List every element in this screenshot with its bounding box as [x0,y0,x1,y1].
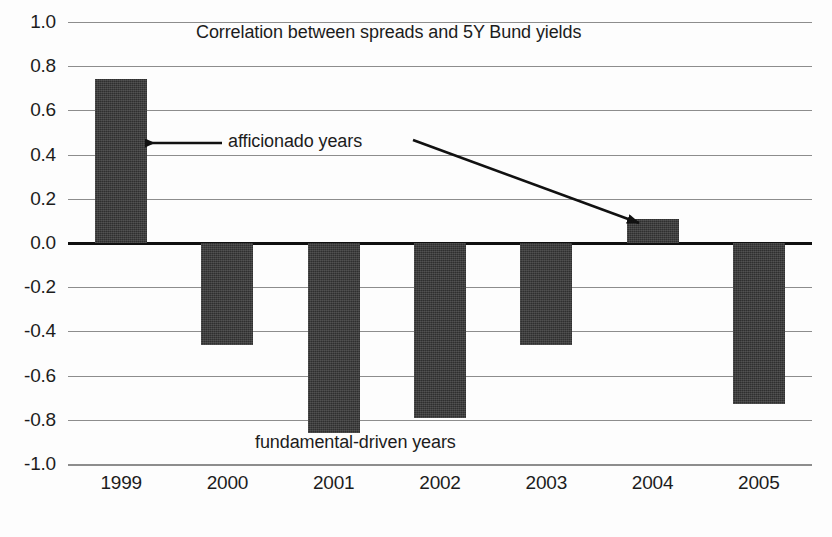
bar-2003 [520,243,572,345]
y-axis-tick-label: 0.4 [30,144,56,166]
chart-title: Correlation between spreads and 5Y Bund … [196,22,581,43]
bottom-caption [52,523,572,537]
x-axis-tick-labels: 1999200020012002200320042005 [68,472,812,502]
y-axis-tick-label: 0.8 [30,55,56,77]
x-axis-tick-label: 1999 [100,472,141,494]
y-axis-tick-label: -0.6 [24,365,56,387]
annotation-label-fundamental-driven-years: fundamental-driven years [255,432,456,453]
x-axis-line [68,464,812,466]
plot-area: 1.00.80.60.40.20.0-0.2-0.4-0.6-0.8-1.0 [68,22,812,464]
y-axis-tick-label: 0.6 [30,99,56,121]
bar-2001 [308,243,360,433]
x-axis-tick-label: 2000 [207,472,248,494]
x-axis-tick-label: 2003 [526,472,567,494]
x-axis-tick-label: 2004 [632,472,673,494]
bar-1999 [95,79,147,243]
x-axis-tick-label: 2001 [313,472,354,494]
y-axis-tick-label: -0.2 [24,276,56,298]
bar-2005 [733,243,785,404]
bar-series [68,22,812,464]
bar-2004 [627,219,679,243]
y-axis-tick-label: -0.8 [24,409,56,431]
annotation-label-afficionado-years: afficionado years [228,131,362,152]
y-axis-tick-label: 0.0 [30,232,56,254]
y-axis-tick-label: -1.0 [24,453,56,475]
bar-2002 [414,243,466,418]
y-axis-tick-label: -0.4 [24,320,56,342]
y-axis-tick-label: 0.2 [30,188,56,210]
bar-2000 [201,243,253,345]
x-axis-tick-label: 2002 [419,472,460,494]
chart-figure: 1.00.80.60.40.20.0-0.2-0.4-0.6-0.8-1.0 1… [0,0,832,537]
x-axis-tick-label: 2005 [738,472,779,494]
y-axis-tick-label: 1.0 [30,11,56,33]
